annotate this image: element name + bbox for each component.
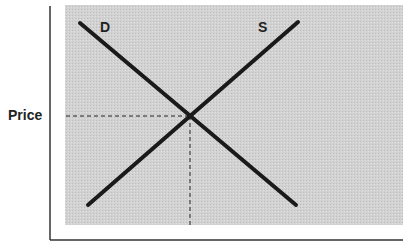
y-axis-label: Price: [8, 107, 42, 123]
supply-demand-diagram: [0, 0, 411, 247]
plot-panel: [65, 5, 403, 225]
demand-label: D: [100, 19, 110, 35]
supply-label: S: [258, 19, 267, 35]
